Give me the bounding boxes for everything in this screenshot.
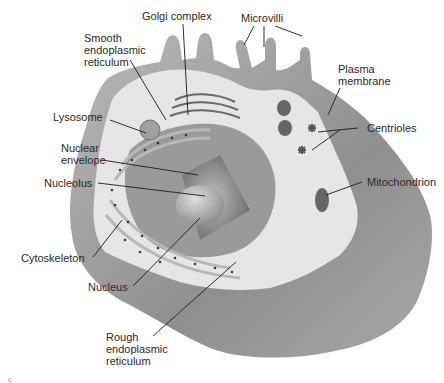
label-rough-er: Rough endoplasmic reticulum bbox=[106, 331, 168, 367]
label-plasma-membrane: Plasma membrane bbox=[338, 63, 391, 87]
label-nuclear-envelope: Nuclear envelope bbox=[61, 142, 106, 166]
label-smooth-er: Smooth endoplasmic reticulum bbox=[84, 32, 146, 68]
label-centrioles: Centrioles bbox=[367, 122, 417, 134]
label-microvilli: Microvilli bbox=[241, 12, 283, 24]
lysosome-shape bbox=[140, 120, 160, 140]
label-mitochondrion: Mitochondrion bbox=[367, 176, 436, 188]
corner-mark: c bbox=[8, 374, 12, 383]
label-golgi-complex: Golgi complex bbox=[142, 10, 212, 22]
label-nucleolus: Nucleolus bbox=[44, 177, 92, 189]
nucleolus-shape bbox=[176, 185, 224, 225]
cell-diagram: Golgi complex Microvilli Smooth endoplas… bbox=[0, 0, 444, 383]
label-cytoskeleton: Cytoskeleton bbox=[21, 252, 85, 264]
mitochondrion-shape bbox=[315, 188, 329, 212]
label-lysosome: Lysosome bbox=[53, 111, 103, 123]
cell-illustration bbox=[0, 0, 444, 383]
label-nucleus: Nucleus bbox=[88, 281, 128, 293]
